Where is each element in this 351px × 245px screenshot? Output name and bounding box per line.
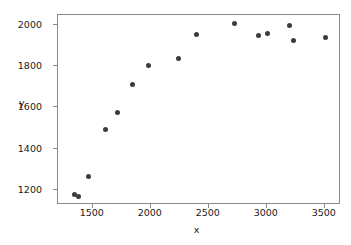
x-tick-mark <box>150 204 151 208</box>
y-axis-label: y <box>19 97 25 108</box>
scatter-plot-figure: 12001400160018002000 1500200025003000350… <box>0 0 351 245</box>
data-point <box>146 63 151 68</box>
x-axis-label: x <box>0 224 351 235</box>
data-point <box>291 38 296 43</box>
plot-area <box>57 14 340 204</box>
x-tick-mark <box>92 204 93 208</box>
data-point <box>323 35 328 40</box>
y-tick-mark <box>53 106 57 107</box>
y-tick-label: 1400 <box>18 142 42 153</box>
x-tick-label: 3000 <box>254 207 278 218</box>
x-tick-mark <box>266 204 267 208</box>
x-tick-mark <box>208 204 209 208</box>
x-axis-label-text: x <box>194 224 200 235</box>
y-tick-label: 1200 <box>18 183 42 194</box>
data-point <box>256 33 261 38</box>
data-point <box>130 82 135 87</box>
data-point <box>287 23 292 28</box>
data-point <box>232 21 237 26</box>
x-tick-label: 2500 <box>196 207 220 218</box>
data-point <box>103 127 108 132</box>
y-tick-mark <box>53 189 57 190</box>
y-tick-mark <box>53 65 57 66</box>
x-tick-mark <box>324 204 325 208</box>
x-tick-label: 1500 <box>80 207 104 218</box>
x-tick-label: 2000 <box>138 207 162 218</box>
y-tick-label: 2000 <box>18 19 42 30</box>
data-point <box>194 32 199 37</box>
data-point <box>115 110 120 115</box>
y-tick-label: 1800 <box>18 60 42 71</box>
y-tick-mark <box>53 148 57 149</box>
y-tick-mark <box>53 24 57 25</box>
data-point <box>265 31 270 36</box>
x-tick-label: 3500 <box>312 207 336 218</box>
data-point <box>176 56 181 61</box>
data-point <box>86 174 91 179</box>
data-point <box>76 194 81 199</box>
